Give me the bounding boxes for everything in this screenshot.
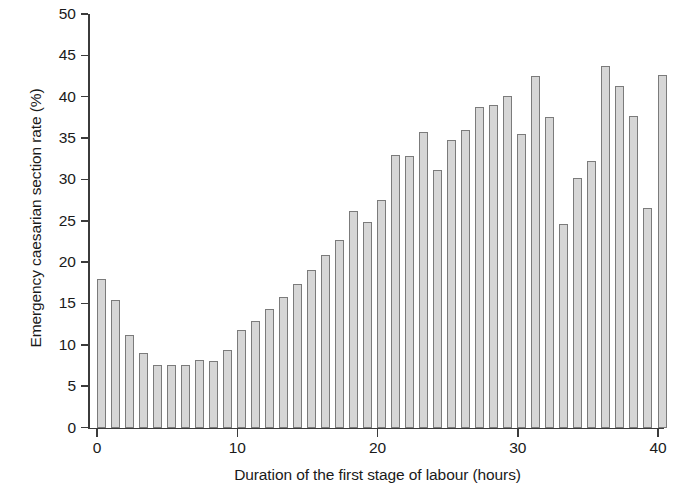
bar <box>363 222 372 428</box>
bar <box>405 156 414 427</box>
bar <box>293 284 302 427</box>
y-axis-tick: 0 <box>81 427 88 429</box>
bar <box>615 86 624 428</box>
bar <box>545 117 554 428</box>
bar <box>391 155 400 428</box>
bar <box>307 270 316 428</box>
bar <box>419 132 428 427</box>
bar <box>195 360 204 428</box>
bar <box>97 279 106 428</box>
bar <box>125 335 134 428</box>
bar <box>265 309 274 427</box>
bar <box>223 350 232 428</box>
bar <box>377 200 386 427</box>
y-axis-tick: 45 <box>81 55 88 57</box>
bar <box>475 107 484 428</box>
y-axis-tick-label: 30 <box>59 170 76 188</box>
bar <box>531 76 540 427</box>
y-axis-tick-label: 25 <box>59 212 76 230</box>
x-axis-tick-label: 10 <box>229 439 246 457</box>
bar <box>335 240 344 428</box>
bar <box>601 66 610 427</box>
y-axis-tick: 35 <box>81 137 88 139</box>
bar <box>503 96 512 428</box>
bar <box>139 353 148 427</box>
y-axis-tick-label: 10 <box>59 336 76 354</box>
bar <box>209 361 218 428</box>
y-axis-tick: 15 <box>81 303 88 305</box>
x-axis-tick <box>517 429 519 437</box>
bar <box>153 365 162 428</box>
y-axis-title: Emergency caesarian section rate (%) <box>24 0 48 436</box>
y-axis-tick-label: 0 <box>67 419 76 437</box>
chart-figure: Emergency caesarian section rate (%) 051… <box>0 0 675 497</box>
bar <box>658 75 667 427</box>
y-axis-tick: 10 <box>81 344 88 346</box>
bar <box>111 300 120 427</box>
bar <box>349 211 358 428</box>
bar <box>447 140 456 428</box>
bar <box>517 134 526 428</box>
y-axis-tick: 30 <box>81 179 88 181</box>
x-axis-title: Duration of the first stage of labour (h… <box>97 466 658 484</box>
bar <box>181 365 190 427</box>
x-axis-tick-label: 20 <box>369 439 386 457</box>
bar <box>237 330 246 428</box>
y-axis-tick-label: 50 <box>59 5 76 23</box>
bar <box>433 170 442 427</box>
y-axis-tick-label: 35 <box>59 129 76 147</box>
y-axis-tick: 40 <box>81 96 88 98</box>
bar <box>321 255 330 428</box>
y-axis-tick-label: 5 <box>67 377 76 395</box>
bar <box>461 130 470 428</box>
y-axis-line <box>88 14 90 429</box>
y-axis-tick: 5 <box>81 385 88 387</box>
y-axis-tick: 25 <box>81 220 88 222</box>
bar <box>167 365 176 428</box>
y-axis-tick: 50 <box>81 13 88 15</box>
bar <box>251 321 260 428</box>
bar <box>559 224 568 427</box>
x-axis-tick <box>237 429 239 437</box>
x-axis-tick <box>96 429 98 437</box>
bar <box>573 178 582 428</box>
plot-area: 05101520253035404550 010203040 <box>88 14 664 429</box>
y-axis-tick-label: 20 <box>59 253 76 271</box>
y-axis-tick-label: 15 <box>59 294 76 312</box>
y-axis-tick-label: 45 <box>59 46 76 64</box>
x-axis-tick <box>377 429 379 437</box>
x-axis-tick-label: 30 <box>509 439 526 457</box>
x-axis-tick-label: 0 <box>93 439 102 457</box>
y-axis-tick-label: 40 <box>59 88 76 106</box>
x-axis-tick <box>657 429 659 437</box>
x-axis-tick-label: 40 <box>649 439 666 457</box>
bar <box>587 161 596 427</box>
bar <box>643 208 652 428</box>
bar <box>629 116 638 428</box>
bar <box>489 105 498 428</box>
y-axis-tick: 20 <box>81 261 88 263</box>
bar <box>279 297 288 428</box>
